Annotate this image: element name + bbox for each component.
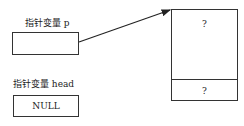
pointer-arrow: [79, 10, 170, 42]
node-data-field: ?: [172, 10, 237, 79]
pointer-p-box: [12, 32, 79, 55]
list-node: ? ?: [171, 9, 238, 101]
pointer-head-label: 指针变量 head: [13, 79, 74, 89]
pointer-head-box: NULL: [13, 95, 79, 117]
node-next-field: ?: [172, 79, 237, 101]
pointer-p-label: 指针变量 p: [25, 18, 70, 28]
